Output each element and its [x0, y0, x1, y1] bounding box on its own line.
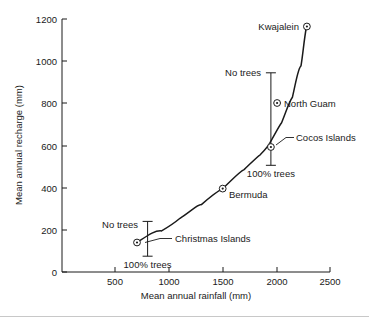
data-point-bermuda[interactable] — [219, 185, 226, 192]
marker-center-dot — [222, 188, 224, 190]
marker-center-dot — [306, 25, 308, 27]
point-label-north-guam: North Guam — [284, 98, 336, 109]
data-point-kwajalein[interactable] — [304, 23, 311, 30]
y-tick-label-800: 800 — [41, 98, 57, 109]
x-tick-label-1000: 1000 — [158, 276, 179, 287]
y-tick-label-400: 400 — [41, 183, 57, 194]
marker-center-dot — [276, 102, 278, 104]
marker-center-dot — [136, 241, 138, 243]
leader-christmas-islands — [145, 239, 172, 243]
recharge-vs-rainfall-chart: 1200 1000 800 600 400 200 0 500 1000 150… — [0, 0, 369, 324]
point-label-bermuda: Bermuda — [229, 189, 268, 200]
point-label-cocos-islands: Cocos Islands — [296, 132, 356, 143]
x-tick-label-1500: 1500 — [212, 276, 233, 287]
marker-center-dot — [270, 146, 272, 148]
x-axis-title: Mean annual rainfall (mm) — [141, 290, 251, 301]
y-tick-label-1000: 1000 — [36, 56, 57, 67]
data-point-north-guam[interactable] — [274, 100, 281, 107]
x-tick-label-500: 500 — [107, 276, 123, 287]
x-axis-ticks: 500 1000 1500 2000 2500 — [107, 267, 341, 287]
chart-figure: 1200 1000 800 600 400 200 0 500 1000 150… — [0, 0, 369, 324]
christmas-no-trees-label: No trees — [102, 219, 138, 230]
christmas-100-trees-label: 100% trees — [124, 259, 172, 270]
point-label-kwajalein: Kwajalein — [258, 21, 299, 32]
data-point-cocos-islands[interactable] — [268, 144, 275, 151]
x-tick-label-2000: 2000 — [266, 276, 287, 287]
y-tick-label-1200: 1200 — [36, 14, 57, 25]
y-tick-label-600: 600 — [41, 141, 57, 152]
y-tick-label-200: 200 — [41, 225, 57, 236]
fitted-curve — [137, 27, 306, 243]
cocos-100-trees-label: 100% trees — [247, 168, 295, 179]
footer-divider — [0, 316, 369, 317]
cocos-no-trees-label: No trees — [225, 67, 261, 78]
x-tick-label-2500: 2500 — [319, 276, 340, 287]
y-axis-title: Mean annual recharge (mm) — [13, 85, 24, 205]
y-tick-label-0: 0 — [52, 267, 57, 278]
errorbar-cocos-islands: No trees 100% trees — [225, 67, 295, 179]
point-label-christmas-islands: Christmas Islands — [175, 233, 251, 244]
leader-cocos-islands — [276, 138, 294, 146]
data-point-christmas-islands[interactable] — [134, 239, 141, 246]
